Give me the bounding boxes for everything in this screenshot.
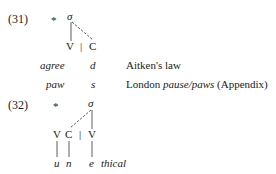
association-lines	[0, 0, 276, 174]
